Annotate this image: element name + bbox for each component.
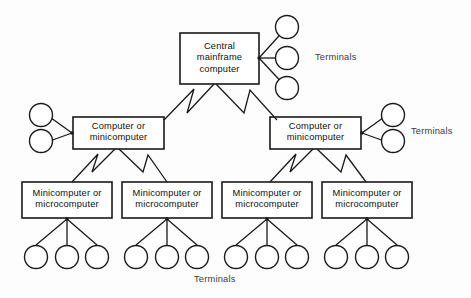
terminal-circle: [186, 246, 209, 269]
terminal-circle: [276, 77, 299, 100]
terminal-circle: [30, 130, 53, 153]
node-leaf-1-box: [22, 182, 112, 218]
link-mid-left-to-leaf-1: [72, 149, 115, 182]
node-mid-left-box: [73, 117, 164, 149]
terminal-circle: [276, 16, 299, 39]
terminal-circle: [386, 246, 409, 269]
junction-mid-left: [70, 131, 73, 134]
node-mid-right-box: [270, 117, 361, 149]
terminal-circle: [86, 246, 109, 269]
terminal-circle: [356, 246, 379, 269]
link-mid-right-to-leaf-3: [270, 149, 313, 182]
link-leaf-4-terminal-1: [336, 219, 367, 245]
junction-leaf-3: [265, 217, 268, 220]
terminal-circle: [276, 47, 299, 70]
link-leaf-3-terminal-1: [236, 219, 267, 245]
link-leaf-1-terminal-1: [36, 219, 67, 245]
terminal-circle: [325, 246, 348, 269]
terminal-circle: [256, 246, 279, 269]
node-leaf-2-box: [122, 182, 212, 218]
link-mainframe-to-mid-right: [216, 84, 277, 120]
terminal-circle: [225, 246, 248, 269]
network-diagram: Central mainframe computer Computer or m…: [0, 0, 471, 298]
junction-mainframe-right: [257, 56, 260, 59]
junction-leaf-4: [365, 217, 368, 220]
link-mainframe-to-mid-left: [164, 84, 214, 120]
junction-leaf-1: [65, 217, 68, 220]
link-leaf-2-terminal-3: [167, 219, 197, 245]
terminal-circle: [382, 130, 405, 153]
link-leaf-3-terminal-3: [267, 219, 297, 245]
terminal-circle: [30, 104, 53, 127]
link-leaf-2-terminal-1: [136, 219, 167, 245]
link-mid-left-to-leaf-2: [119, 149, 167, 182]
link-leaf-1-terminal-3: [67, 219, 97, 245]
terminal-circle: [286, 246, 309, 269]
node-leaf-4-box: [322, 182, 412, 218]
terminal-circle: [125, 246, 148, 269]
junction-leaf-2: [165, 217, 168, 220]
diagram-canvas: [0, 0, 471, 298]
terminal-circle: [382, 104, 405, 127]
junction-mid-right: [360, 131, 363, 134]
terminal-circle: [25, 246, 48, 269]
link-leaf-4-terminal-3: [367, 219, 397, 245]
terminal-circle: [156, 246, 179, 269]
node-mainframe-box: [180, 33, 259, 84]
link-mid-right-to-leaf-4: [317, 149, 366, 182]
terminal-circle: [56, 246, 79, 269]
node-leaf-3-box: [222, 182, 312, 218]
